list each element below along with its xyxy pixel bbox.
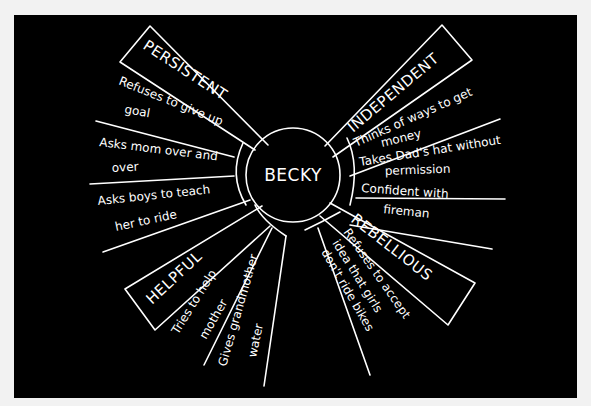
character-web-diagram: BECKY PERSISTENT Refuses to give up goal… (0, 0, 591, 406)
trait-asks-mom: Asks mom over and over (99, 135, 219, 175)
svg-text:water: water (245, 322, 266, 358)
svg-text:fireman: fireman (383, 202, 430, 221)
svg-text:her to ride: her to ride (114, 207, 178, 234)
svg-text:Asks mom over and: Asks mom over and (99, 135, 219, 163)
bottom-right-arc (305, 212, 340, 230)
right-arc (347, 138, 354, 205)
svg-text:over: over (111, 160, 139, 175)
svg-text:goal: goal (123, 102, 151, 120)
trait-confident-with-fireman: Confident with fireman (361, 181, 449, 221)
trait-asks-boys: Asks boys to teach her to ride (97, 182, 211, 234)
center-label: BECKY (264, 165, 322, 185)
divider-line (264, 236, 286, 386)
svg-text:permission: permission (385, 162, 451, 178)
left-arc (236, 143, 246, 205)
svg-text:Asks boys to teach: Asks boys to teach (97, 182, 211, 208)
divider-line (90, 176, 234, 184)
